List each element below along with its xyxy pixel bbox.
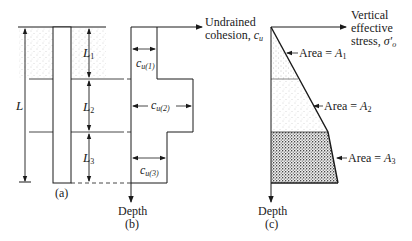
cohesion-axis-label-line2: cohesion, cu — [205, 29, 263, 43]
cohesion-axis-label-line1: Undrained — [205, 16, 256, 28]
area-a2-label: Area = A2 — [324, 100, 371, 114]
depth-label-c: Depth — [258, 205, 287, 217]
caption-b: (b) — [125, 218, 139, 230]
stress-axis-label-line3: stress, σ′o — [351, 35, 396, 49]
depth-label-b: Depth — [118, 205, 147, 217]
l1-label: L1 — [83, 46, 94, 61]
area-a2-region — [271, 79, 328, 132]
cu2-label: cu(2) — [151, 99, 170, 113]
pile — [53, 27, 71, 183]
total-length-label: L — [16, 99, 23, 112]
l3-label: L3 — [83, 151, 94, 166]
soil-stipple-left — [19, 28, 53, 78]
area-a3-region — [271, 132, 338, 183]
area-a1-label: Area = A1 — [299, 47, 346, 61]
figure-a-pile-profile — [18, 27, 131, 183]
stress-axis-label-line1: Vertical — [351, 9, 388, 21]
cu3-label: cu(3) — [140, 164, 159, 178]
cu1-label: cu(1) — [136, 57, 155, 71]
caption-a: (a) — [55, 187, 68, 199]
stress-axis-label-line2: effective — [351, 22, 393, 34]
l2-label: L2 — [83, 100, 94, 115]
caption-c: (c) — [265, 218, 278, 230]
area-a3-label: Area = A3 — [348, 152, 395, 166]
